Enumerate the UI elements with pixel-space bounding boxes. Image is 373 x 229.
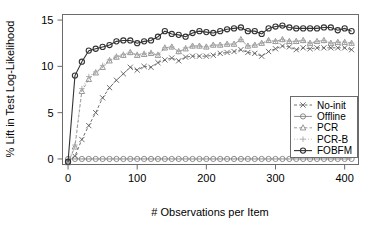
y-tick-label: 0 <box>47 153 53 165</box>
chart-legend[interactable]: No-initOfflinePCRPCR-BFOBFM <box>291 97 358 158</box>
data-point <box>93 110 98 115</box>
data-point <box>176 58 181 63</box>
data-point <box>169 55 174 60</box>
data-point <box>259 54 264 59</box>
y-tick-label: 15 <box>41 14 53 26</box>
data-point <box>155 60 160 65</box>
y-axis-ticks: 051015 <box>41 14 62 165</box>
legend-label: No-init <box>317 100 346 111</box>
data-point <box>86 123 91 128</box>
legend-label: PCR-B <box>317 134 348 145</box>
data-point <box>114 78 119 83</box>
data-point <box>266 49 271 54</box>
data-point <box>342 45 347 50</box>
legend-label: PCR <box>317 122 338 133</box>
x-tick-label: 400 <box>335 172 353 184</box>
x-axis-label: # Observations per Item <box>151 206 268 218</box>
data-point <box>252 51 257 56</box>
chart-figure: 051015 0100200300400 # Observations per … <box>0 0 373 229</box>
data-point <box>100 95 105 100</box>
data-point <box>238 47 243 52</box>
x-tick-label: 300 <box>266 172 284 184</box>
data-point <box>349 29 354 34</box>
data-point <box>135 67 140 72</box>
data-point <box>231 49 236 54</box>
x-tick-label: 200 <box>197 172 215 184</box>
y-tick-label: 5 <box>47 107 53 119</box>
y-tick-label: 10 <box>41 60 53 72</box>
x-axis-ticks: 0100200300400 <box>65 165 354 184</box>
data-point <box>301 45 306 50</box>
x-tick-label: 100 <box>128 172 146 184</box>
y-axis-label: % Lift in Test Log-Likelihood <box>4 21 16 158</box>
data-point <box>211 53 216 58</box>
legend-label: FOBFM <box>317 145 352 156</box>
data-point <box>86 74 92 80</box>
x-tick-label: 0 <box>65 172 71 184</box>
data-point <box>128 65 133 70</box>
line-chart: 051015 0100200300400 # Observations per … <box>0 0 373 229</box>
legend-label: Offline <box>317 111 346 122</box>
data-point <box>162 57 167 62</box>
data-point <box>218 51 223 56</box>
data-point <box>121 71 126 76</box>
data-point <box>79 137 84 142</box>
data-point <box>349 47 354 52</box>
data-point <box>294 47 299 52</box>
data-point <box>107 85 112 90</box>
data-point <box>79 86 85 92</box>
data-point <box>273 46 278 51</box>
